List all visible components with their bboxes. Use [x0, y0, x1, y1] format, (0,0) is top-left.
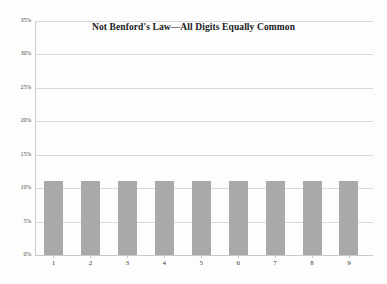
y-axis-tick-label: 0%	[1, 251, 31, 257]
gridline	[35, 88, 373, 89]
bar	[266, 181, 285, 255]
x-axis-tick-label: 1	[44, 259, 63, 267]
chart-figure: Not Benford's Law—All Digits Equally Com…	[0, 0, 387, 284]
y-axis-tick-label: 35%	[1, 17, 31, 23]
y-axis-tick-label: 5%	[1, 218, 31, 224]
gridline	[35, 21, 373, 22]
x-axis-tick-mark	[201, 255, 202, 258]
y-axis-tick-label: 25%	[1, 84, 31, 90]
x-axis-tick-label: 7	[266, 259, 285, 267]
y-axis-tick-label: 15%	[1, 151, 31, 157]
bar	[44, 181, 63, 255]
gridline	[35, 121, 373, 122]
bar	[339, 181, 358, 255]
x-axis-tick-mark	[90, 255, 91, 258]
x-axis-tick-label: 4	[155, 259, 174, 267]
x-axis-tick-mark	[53, 255, 54, 258]
gridline	[35, 155, 373, 156]
bar	[81, 181, 100, 255]
y-axis-tick-label: 20%	[1, 117, 31, 123]
x-axis-tick-label: 5	[192, 259, 211, 267]
x-axis-tick-mark	[349, 255, 350, 258]
bar	[303, 181, 322, 255]
y-axis-tick-label: 10%	[1, 184, 31, 190]
x-axis-tick-label: 8	[303, 259, 322, 267]
gridline	[35, 54, 373, 55]
x-axis-tick-label: 6	[229, 259, 248, 267]
bar	[229, 181, 248, 255]
x-axis-tick-mark	[312, 255, 313, 258]
x-axis-tick-mark	[127, 255, 128, 258]
bar	[118, 181, 137, 255]
gridline	[35, 255, 373, 256]
bar	[192, 181, 211, 255]
y-axis-tick-labels: 35%30%25%20%15%10%5%0%	[0, 21, 31, 255]
x-axis-tick-label: 3	[118, 259, 137, 267]
x-axis-tick-label: 9	[339, 259, 358, 267]
y-axis-tick-label: 30%	[1, 50, 31, 56]
plot-area	[35, 21, 373, 255]
x-axis-tick-label: 2	[81, 259, 100, 267]
x-axis-tick-mark	[164, 255, 165, 258]
x-axis-tick-mark	[275, 255, 276, 258]
bar	[155, 181, 174, 255]
x-axis-tick-mark	[238, 255, 239, 258]
